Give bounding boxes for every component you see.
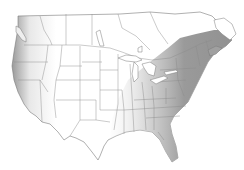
range-map xyxy=(0,0,244,170)
